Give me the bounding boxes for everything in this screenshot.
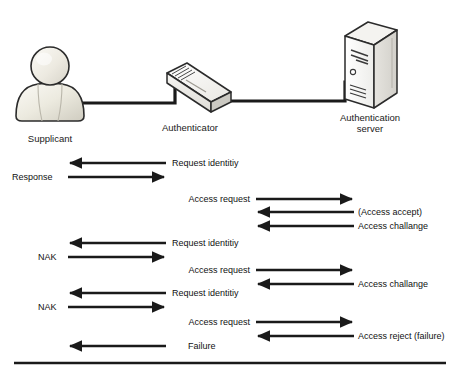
message-label-12: Access request bbox=[150, 317, 250, 327]
message-label-3: Access request bbox=[150, 194, 250, 204]
message-label-11: NAK bbox=[38, 302, 57, 312]
message-label-9: Access challange bbox=[358, 279, 428, 289]
node-label-authenticator: Authenticator bbox=[130, 122, 250, 133]
link-authenticator-server bbox=[222, 82, 345, 101]
message-label-8: Access request bbox=[150, 265, 250, 275]
auth-server-label-line-1: Authentication bbox=[340, 112, 400, 123]
diagram-canvas: Supplicant Authenticator Authentication … bbox=[0, 0, 458, 374]
message-label-13: Access reject (failure) bbox=[358, 331, 445, 341]
node-label-supplicant: Supplicant bbox=[10, 133, 90, 144]
message-label-10: Request identitiy bbox=[172, 288, 239, 298]
message-label-5: Access challange bbox=[358, 221, 428, 231]
message-label-7: NAK bbox=[38, 252, 57, 262]
message-label-1: Request identitiy bbox=[172, 158, 239, 168]
message-label-4: (Access accept) bbox=[358, 207, 422, 217]
user-person-icon bbox=[16, 47, 84, 121]
server-tower-icon bbox=[345, 22, 397, 108]
auth-server-label-line-2: server bbox=[357, 123, 383, 134]
node-label-auth-server: Authentication server bbox=[310, 112, 430, 134]
network-switch-icon bbox=[167, 63, 231, 112]
message-label-2: Response bbox=[12, 172, 53, 182]
message-label-6: Request identitiy bbox=[172, 238, 239, 248]
message-label-14: Failure bbox=[188, 341, 216, 351]
